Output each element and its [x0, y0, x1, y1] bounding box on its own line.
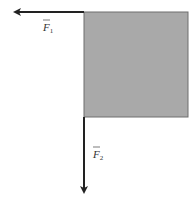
force-diagram: F1 F2: [0, 0, 196, 199]
f1-subscript: 1: [50, 27, 54, 35]
svg-text:F1: F1: [42, 21, 54, 35]
block: [84, 12, 188, 117]
force-label-f2: F2: [92, 147, 104, 162]
svg-text:F2: F2: [92, 148, 104, 162]
f2-subscript: 2: [100, 154, 104, 162]
force-label-f1: F1: [42, 20, 54, 35]
